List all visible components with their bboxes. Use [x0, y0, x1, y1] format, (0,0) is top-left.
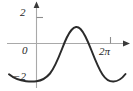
y-axis-label-negative-2: −2 [13, 71, 26, 82]
sine-wave-graph: 2 0 −2 2π [0, 0, 133, 91]
x-axis-label-2pi: 2π [99, 46, 110, 57]
x-axis-arrow-icon [123, 41, 130, 47]
y-axis-arrow-icon [34, 2, 40, 9]
origin-label-0: 0 [22, 45, 28, 56]
y-axis-label-2: 2 [20, 7, 26, 18]
